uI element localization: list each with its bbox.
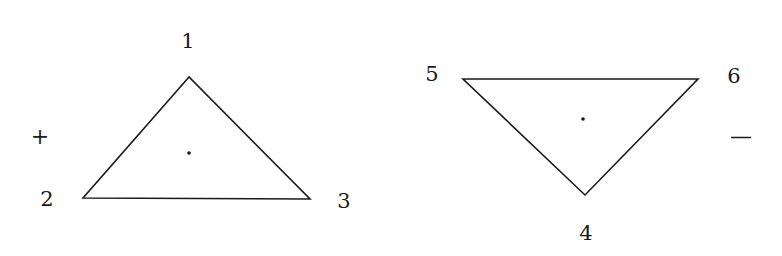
upward-triangle: 1 2 3 + [31,29,351,213]
triangle-diagram: 1 2 3 + 4 5 6 — [0,0,782,256]
triangle-outline [463,79,698,195]
center-dot [581,117,585,121]
vertex-label-2: 2 [40,187,53,211]
vertex-label-4: 4 [579,221,592,245]
triangle-outline [83,77,310,199]
vertex-label-3: 3 [337,189,350,213]
plus-sign: + [31,124,49,149]
vertex-label-1: 1 [181,29,194,53]
downward-triangle: 4 5 6 — [425,62,752,245]
vertex-label-6: 6 [727,64,740,88]
vertex-label-5: 5 [425,62,438,86]
center-dot [187,151,191,155]
minus-sign: — [730,124,752,149]
